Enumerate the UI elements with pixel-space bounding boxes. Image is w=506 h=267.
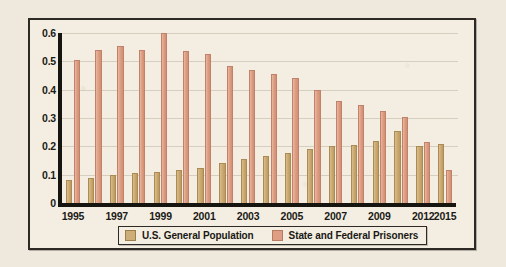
x-tick-label: 2012 <box>412 210 435 222</box>
y-tick-label: 0.2 <box>42 140 56 152</box>
legend-swatch-icon <box>125 230 136 241</box>
bar-group <box>154 33 168 203</box>
bar <box>66 180 72 203</box>
bar <box>197 168 203 203</box>
bar <box>336 101 342 203</box>
bar-group <box>66 33 80 203</box>
bar <box>373 141 379 203</box>
bar <box>154 172 160 203</box>
chart-legend: U.S. General PopulationState and Federal… <box>118 226 427 245</box>
bar-group <box>373 33 387 203</box>
legend-label: U.S. General Population <box>142 230 254 241</box>
bar <box>117 46 123 203</box>
chart-figure: 00.10.20.30.40.50.6 19951997199920012003… <box>28 18 476 250</box>
bar-group <box>351 33 365 203</box>
bar-group <box>307 33 321 203</box>
bar <box>438 144 444 204</box>
bar <box>227 66 233 203</box>
bar-group <box>176 33 190 203</box>
bars-container <box>62 33 456 203</box>
y-tick-label: 0.1 <box>42 169 56 181</box>
bar-group <box>110 33 124 203</box>
x-tick-label: 2003 <box>237 210 260 222</box>
bar <box>161 33 167 203</box>
bar-group <box>88 33 102 203</box>
x-tick-label: 1995 <box>62 210 85 222</box>
bar <box>292 78 298 203</box>
bar <box>446 170 452 203</box>
x-tick-label: 2009 <box>368 210 391 222</box>
bar <box>424 142 430 203</box>
bar <box>285 153 291 203</box>
bar <box>351 145 357 203</box>
bar <box>263 156 269 203</box>
bar <box>314 90 320 203</box>
bar <box>307 149 313 203</box>
legend-item: State and Federal Prisoners <box>272 230 419 241</box>
y-tick-label: 0 <box>50 197 56 209</box>
bar <box>176 170 182 203</box>
bar-group <box>394 33 408 203</box>
bar <box>394 131 400 203</box>
y-tick-label: 0.5 <box>42 55 56 67</box>
bar-group <box>285 33 299 203</box>
x-tick-label: 2015 <box>434 210 457 222</box>
y-tick-label: 0.3 <box>42 112 56 124</box>
bar <box>205 54 211 203</box>
y-tick-label: 0.6 <box>42 27 56 39</box>
bar <box>380 111 386 203</box>
legend-item: U.S. General Population <box>125 230 254 241</box>
plot-area: 00.10.20.30.40.50.6 19951997199920012003… <box>30 20 474 248</box>
x-tick-label: 1997 <box>105 210 128 222</box>
bar <box>358 105 364 203</box>
bar-group <box>241 33 255 203</box>
bar <box>74 60 80 203</box>
bar <box>416 146 422 203</box>
legend-swatch-icon <box>272 230 283 241</box>
bar <box>402 117 408 203</box>
x-tick-label: 2007 <box>324 210 347 222</box>
bar <box>132 173 138 203</box>
bar <box>139 50 145 203</box>
bar-group <box>329 33 343 203</box>
x-tick-label: 1999 <box>149 210 172 222</box>
x-axis-line <box>58 203 456 207</box>
bar <box>88 178 94 204</box>
bar-group <box>416 33 430 203</box>
bar <box>249 70 255 203</box>
y-tick-label: 0.4 <box>42 84 56 96</box>
legend-label: State and Federal Prisoners <box>289 230 419 241</box>
x-tick-label: 2001 <box>193 210 216 222</box>
bar <box>219 163 225 203</box>
bar-group <box>197 33 211 203</box>
x-tick-label: 2005 <box>281 210 304 222</box>
bar-group <box>132 33 146 203</box>
bar <box>271 74 277 203</box>
bar-group <box>438 33 452 203</box>
bar <box>110 175 116 203</box>
bar-group <box>263 33 277 203</box>
bar-group <box>219 33 233 203</box>
bar <box>329 146 335 203</box>
bar <box>95 50 101 203</box>
bar <box>183 51 189 203</box>
bar <box>241 159 247 203</box>
chart-screenshot: 00.10.20.30.40.50.6 19951997199920012003… <box>0 0 506 267</box>
